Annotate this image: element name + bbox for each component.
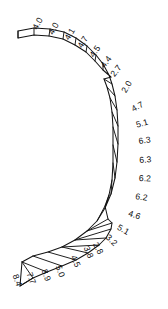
figure-canvas: 4.04.04.14.74.54.42.72.04.75.16.36.36.26… [0, 0, 168, 309]
segment-value-label: 6.3 [138, 135, 151, 145]
segment-value-label: 6.2 [139, 174, 152, 183]
segment-value-label: 6.2 [135, 192, 148, 202]
rib-line [105, 195, 109, 208]
segment-value-label: 6.3 [139, 155, 152, 164]
